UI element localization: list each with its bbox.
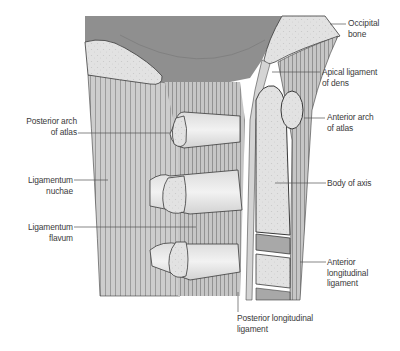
label-line: Apical ligament <box>322 67 377 78</box>
label-line: Body of axis <box>327 178 371 189</box>
label-apical-ligament: Apical ligament of dens <box>322 67 377 88</box>
label-line: ligament <box>237 324 313 335</box>
posterior-arch-of-atlas <box>170 112 240 148</box>
label-anterior-arch: Anterior arch of atlas <box>327 112 374 133</box>
label-line: nuchae <box>28 186 73 197</box>
intervertebral-disc <box>256 234 290 254</box>
label-line: Ligamentum <box>28 222 73 233</box>
label-line: of atlas <box>26 127 77 138</box>
spinous-process-c2 <box>150 170 242 214</box>
vertebral-body-c3 <box>256 254 290 300</box>
label-posterior-longitudinal-ligament: Posterior longitudinal ligament <box>237 313 313 334</box>
label-ligamentum-flavum: Ligamentum flavum <box>28 222 73 243</box>
label-line: Posterior arch <box>26 116 77 127</box>
label-ligamentum-nuchae: Ligamentum nuchae <box>28 175 73 196</box>
label-line: Occipital <box>348 18 379 29</box>
label-line: Posterior longitudinal <box>237 313 313 324</box>
label-line: Anterior arch <box>327 112 374 123</box>
label-occipital-bone: Occipital bone <box>348 18 379 39</box>
label-line: Anterior <box>327 257 368 268</box>
label-line: Ligamentum <box>28 175 73 186</box>
anterior-arch-of-atlas <box>281 91 303 129</box>
label-body-of-axis: Body of axis <box>327 178 371 189</box>
label-line: of dens <box>322 78 377 89</box>
label-anterior-longitudinal-ligament: Anterior longitudinal ligament <box>327 257 368 289</box>
label-posterior-arch: Posterior arch of atlas <box>26 116 77 137</box>
label-line: ligament <box>327 278 368 289</box>
label-line: longitudinal <box>327 268 368 279</box>
label-line: flavum <box>28 233 73 244</box>
label-line: of atlas <box>327 123 374 134</box>
label-line: bone <box>348 29 379 40</box>
